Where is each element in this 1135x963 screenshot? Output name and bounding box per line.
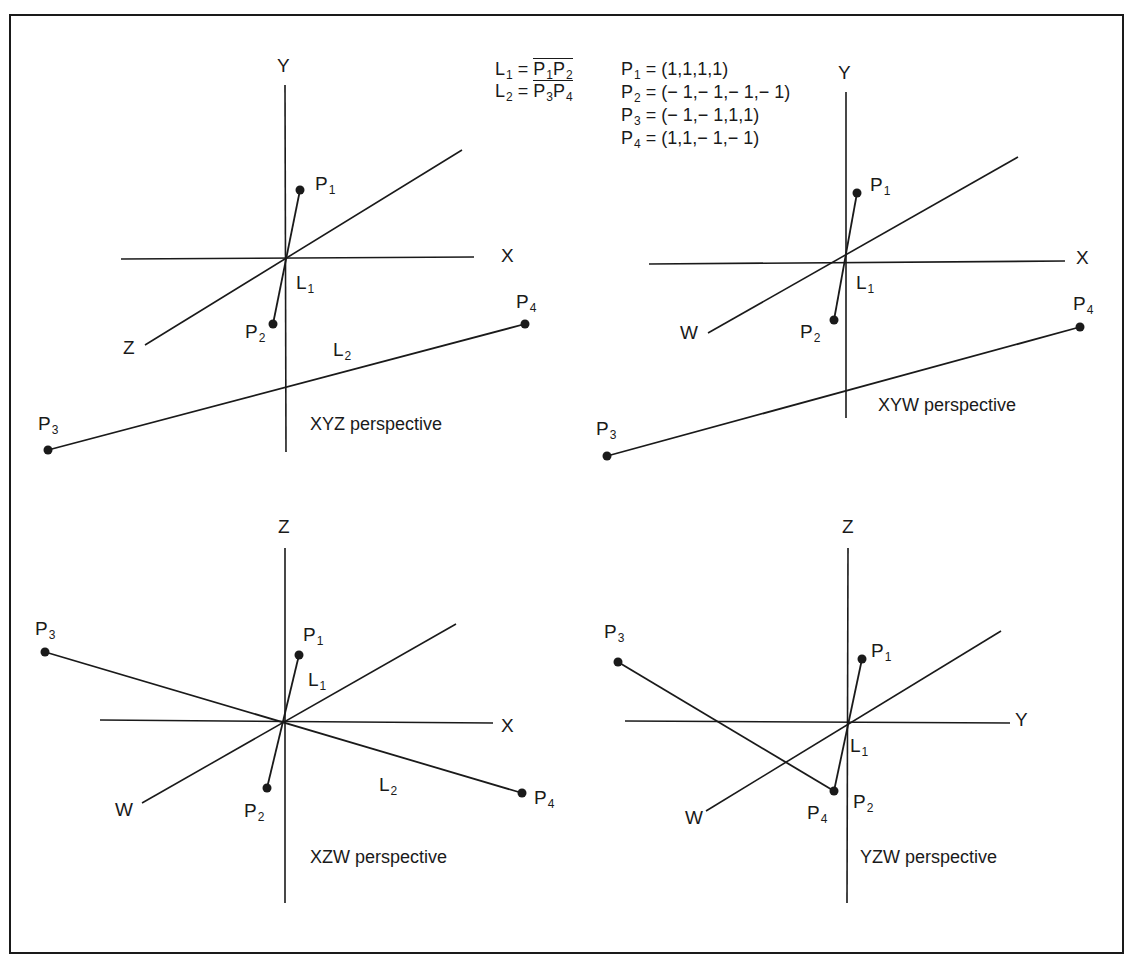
line-segment [273,190,300,324]
label-w: W [115,800,133,819]
label-x: X [501,246,514,265]
point-marker [269,320,278,329]
point-marker [603,452,612,461]
point-definition-p4: P4 = (1,1,− 1,− 1) [621,129,759,150]
label-p4: P4 [534,788,554,810]
label-z: Z [278,517,290,536]
line-segment [607,327,1080,456]
label-w: W [685,808,703,827]
label-p2: P2 [245,322,265,344]
label-x: X [501,716,514,735]
line-definition-l1: L1 = P1P2 [495,60,573,81]
point-marker [853,189,862,198]
label-p3: P3 [596,419,616,441]
point-marker [518,789,527,798]
caption-yzw-perspective: YZW perspective [860,848,997,866]
label-l1: L1 [856,273,874,295]
label-y: Y [838,63,851,82]
panel-xyz [44,85,530,455]
axis-line [625,721,1010,723]
point-marker [521,320,530,329]
label-p1: P1 [870,175,890,197]
caption-xyz-perspective: XYZ perspective [310,415,442,433]
caption-xzw-perspective: XZW perspective [310,848,447,866]
point-definition-p1: P1 = (1,1,1,1) [621,60,728,81]
line-definition-l2: L2 = P3P4 [495,82,573,103]
caption-xyw-perspective: XYW perspective [878,396,1016,414]
panel-xzw [41,548,527,903]
axis-line [708,157,1018,333]
label-p1: P1 [303,625,323,647]
label-y: Y [277,56,290,75]
axis-line [100,720,493,723]
axis-line [121,257,474,259]
point-marker [263,784,272,793]
label-l1: L1 [850,736,868,758]
label-p3: P3 [38,414,58,436]
point-marker [614,658,623,667]
point-marker [830,316,839,325]
label-p2: P2 [800,322,820,344]
point-marker [44,446,53,455]
label-l1: L1 [296,273,314,295]
point-marker [1076,323,1085,332]
perspective-diagrams [0,0,1135,963]
label-w: W [680,323,698,342]
point-marker [830,787,839,796]
label-p3: P3 [604,622,624,644]
label-l2: L2 [333,340,351,362]
point-definition-p2: P2 = (− 1,− 1,− 1,− 1) [621,83,790,104]
point-definition-p3: P3 = (− 1,− 1,1,1) [621,106,759,127]
label-z: Z [123,338,135,357]
label-p1: P1 [871,641,891,663]
label-l1: L1 [308,670,326,692]
point-marker [41,648,50,657]
label-l2: L2 [379,775,397,797]
point-marker [295,651,304,660]
label-p2: P2 [244,801,264,823]
label-p2: P2 [853,792,873,814]
label-z: Z [842,517,854,536]
label-y: Y [1015,710,1028,729]
axis-line [285,85,286,452]
label-p3: P3 [35,619,55,641]
point-marker [296,186,305,195]
axis-line [649,261,1065,264]
point-marker [858,655,867,664]
label-p4: P4 [516,292,536,314]
label-p4: P4 [1073,294,1093,316]
label-p1: P1 [315,174,335,196]
label-x: X [1076,248,1089,267]
axis-line [145,150,462,345]
line-segment [618,662,834,791]
label-p4: P4 [807,803,827,825]
